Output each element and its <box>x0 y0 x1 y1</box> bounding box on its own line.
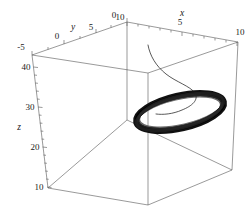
frame-edge-bottom-back-left <box>48 120 127 188</box>
frame-edge-right-vertical <box>232 42 238 170</box>
frame-edge-front-top-left <box>32 55 148 73</box>
z-axis-label: z <box>16 122 21 132</box>
z-tick-label-10: 10 <box>35 182 45 192</box>
plot-box-frame <box>32 22 238 205</box>
y-axis-label: y <box>70 22 76 32</box>
frame-edge-x-axis-top <box>127 22 238 42</box>
z-tick-label-30: 30 <box>26 102 36 112</box>
y-tick-label-10: 10 <box>116 12 126 22</box>
z-axis-ticks <box>34 67 52 188</box>
z-tick-label-20: 20 <box>31 142 41 152</box>
frame-edge-front-top-right <box>148 42 238 73</box>
frame-edge-y-axis-top <box>32 22 127 55</box>
y-tick-label-0: 0 <box>55 31 60 41</box>
z-tick-40 <box>34 67 39 68</box>
x-tick-label-5: 5 <box>178 17 183 27</box>
plot-3d-container: 0 5 10 -5 0 5 10 40 30 20 10 x y z <box>0 0 251 222</box>
y-tick-label-minus5: -5 <box>17 42 25 52</box>
frame-edge-bottom-right <box>148 170 232 205</box>
plot-3d-canvas: 0 5 10 -5 0 5 10 40 30 20 10 x y z <box>0 0 251 222</box>
x-tick-label-10: 10 <box>236 27 246 37</box>
frame-edge-z-axis-left <box>32 55 48 188</box>
frame-edge-bottom-left <box>48 188 148 205</box>
limit-cycle-attractor <box>132 86 227 138</box>
x-axis-label: x <box>179 8 185 18</box>
y-tick-label-5: 5 <box>89 22 94 32</box>
z-tick-label-40: 40 <box>22 62 32 72</box>
y-axis-ticks <box>32 18 127 55</box>
z-tick-30 <box>38 107 43 108</box>
